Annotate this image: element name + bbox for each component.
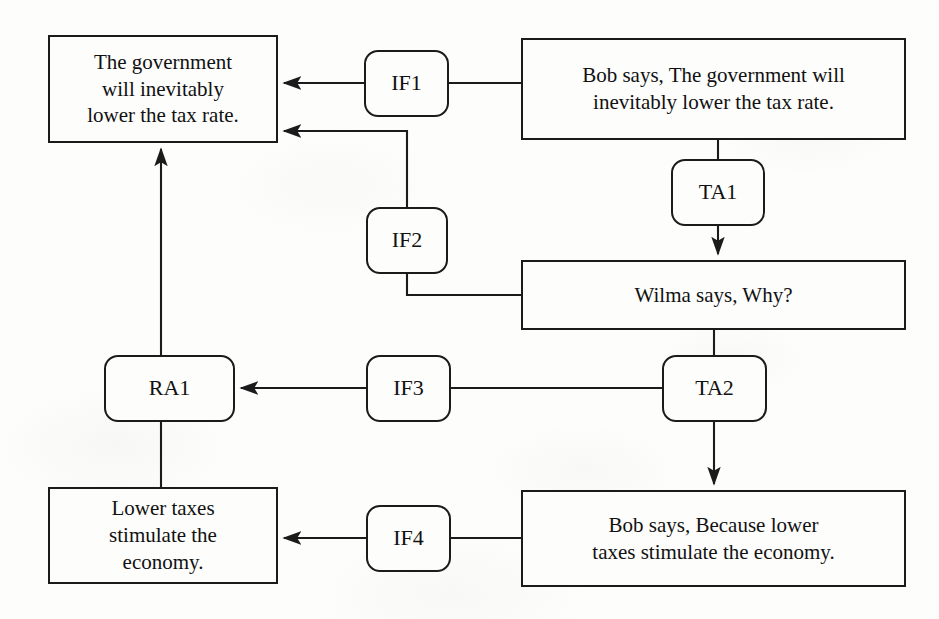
- node-proposition-i1[interactable]: The government will inevitably lower the…: [48, 35, 278, 143]
- node-relation-if1[interactable]: IF1: [364, 50, 449, 117]
- node-label: Bob says, Because lower taxes stimulate …: [592, 512, 834, 566]
- node-relation-if4[interactable]: IF4: [366, 505, 451, 572]
- node-label: TA1: [699, 178, 738, 206]
- node-label: IF1: [391, 69, 422, 97]
- node-label: IF4: [393, 524, 424, 552]
- node-label: Lower taxes stimulate the economy.: [109, 495, 217, 576]
- node-label: Wilma says, Why?: [635, 282, 793, 309]
- node-label: The government will inevitably lower the…: [87, 49, 239, 130]
- diagram-canvas: The government will inevitably lower the…: [0, 0, 939, 619]
- node-locution-l3[interactable]: Bob says, Because lower taxes stimulate …: [521, 490, 906, 587]
- node-relation-ra1[interactable]: RA1: [104, 355, 235, 422]
- node-locution-l1[interactable]: Bob says, The government will inevitably…: [521, 38, 906, 140]
- node-relation-ta2[interactable]: TA2: [662, 355, 767, 422]
- node-label: IF2: [392, 226, 423, 254]
- node-label: Bob says, The government will inevitably…: [582, 62, 845, 116]
- node-proposition-i2[interactable]: Lower taxes stimulate the economy.: [48, 487, 278, 584]
- edge-if2-to-i1: [284, 131, 407, 207]
- edge-l2-to-if2: [407, 274, 521, 295]
- node-label: IF3: [393, 374, 424, 402]
- node-label: TA2: [695, 374, 734, 402]
- node-relation-if3[interactable]: IF3: [366, 355, 451, 422]
- node-locution-l2[interactable]: Wilma says, Why?: [521, 260, 906, 330]
- node-relation-ta1[interactable]: TA1: [671, 159, 765, 226]
- node-label: RA1: [149, 374, 191, 402]
- node-relation-if2[interactable]: IF2: [366, 207, 448, 274]
